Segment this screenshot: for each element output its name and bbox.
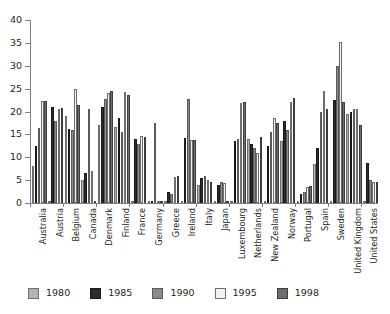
legend-label: 1998	[295, 288, 319, 298]
bar	[309, 186, 312, 203]
bar	[77, 105, 80, 203]
bar-group	[32, 20, 47, 203]
legend-label: 1985	[108, 288, 132, 298]
bar-group	[297, 20, 312, 203]
bar-group	[363, 20, 378, 203]
x-axis-label: Austria	[56, 208, 64, 237]
x-axis-label: Norway	[288, 208, 296, 239]
x-axis-tick	[262, 203, 263, 207]
y-axis-tick-label: 10	[0, 152, 22, 162]
legend-swatch-icon	[152, 288, 163, 299]
y-axis-tick	[25, 180, 30, 181]
bar-chart: 0510152025303540 AustraliaAustriaBelgium…	[0, 0, 390, 314]
x-axis-tick	[361, 203, 362, 207]
bar	[154, 123, 157, 203]
x-axis-tick	[96, 203, 97, 207]
legend-swatch-icon	[277, 288, 288, 299]
legend-item: 1998	[277, 288, 319, 299]
x-axis-label: Luxembourg	[238, 208, 246, 259]
y-axis-tick-label: 30	[0, 61, 22, 71]
x-axis-label: Canada	[89, 208, 97, 239]
bar	[342, 102, 345, 203]
y-axis-tick	[25, 112, 30, 113]
legend-item: 1985	[90, 288, 132, 299]
bar	[127, 95, 130, 203]
legend-swatch-icon	[90, 288, 101, 299]
bar-group	[131, 20, 146, 203]
y-axis-tick-label: 0	[0, 198, 22, 208]
x-axis-label: Sweden	[337, 208, 345, 240]
x-axis-tick	[63, 203, 64, 207]
bar-group	[230, 20, 245, 203]
x-axis-tick	[196, 203, 197, 207]
legend-item: 1990	[152, 288, 194, 299]
bar-group	[264, 20, 279, 203]
plot-area	[30, 20, 378, 203]
x-axis-labels: AustraliaAustriaBelgiumCanadaDenmarkFinl…	[30, 208, 378, 274]
bar	[326, 109, 329, 203]
legend-swatch-icon	[28, 288, 39, 299]
bar	[243, 102, 246, 203]
x-axis-label: Spain	[321, 208, 329, 231]
x-axis-tick	[295, 203, 296, 207]
x-axis-tick	[163, 203, 164, 207]
bar-group	[181, 20, 196, 203]
x-axis-label: Finland	[122, 208, 130, 237]
bar-group	[164, 20, 179, 203]
bar	[177, 176, 180, 203]
bar	[44, 101, 47, 203]
x-axis-tick	[328, 203, 329, 207]
x-axis-label: Ireland	[188, 208, 196, 236]
y-axis-line	[30, 20, 31, 204]
x-axis-label: United States	[370, 208, 378, 263]
bar	[293, 98, 296, 203]
bar-group	[114, 20, 129, 203]
x-axis-tick	[229, 203, 230, 207]
y-axis-tick-label: 15	[0, 129, 22, 139]
y-axis-tick-label: 20	[0, 107, 22, 117]
legend-swatch-icon	[215, 288, 226, 299]
y-axis-tick	[25, 43, 30, 44]
bar-group	[330, 20, 345, 203]
x-axis-label: Denmark	[105, 208, 113, 246]
bar	[260, 137, 263, 203]
x-axis-tick	[30, 203, 31, 207]
bar-group	[247, 20, 262, 203]
x-axis-label: Japan	[221, 208, 229, 231]
y-axis-tick	[25, 20, 30, 21]
x-axis-label: Netherlands	[254, 208, 262, 258]
x-axis-label: Belgium	[72, 208, 80, 242]
x-axis-label: Germany	[155, 208, 163, 246]
x-axis-label: Australia	[39, 208, 47, 244]
y-axis-tick-label: 25	[0, 84, 22, 94]
x-axis-line	[30, 203, 378, 204]
bar	[210, 182, 213, 203]
bar	[144, 137, 147, 203]
x-axis-label: Italy	[205, 208, 213, 226]
y-axis-tick-label: 35	[0, 38, 22, 48]
bar-group	[346, 20, 361, 203]
y-axis-tick	[25, 134, 30, 135]
x-axis-label: France	[138, 208, 146, 235]
bar	[91, 171, 94, 203]
y-axis-tick-label: 40	[0, 15, 22, 25]
bar-group	[313, 20, 328, 203]
bar-group	[65, 20, 80, 203]
legend-item: 1995	[215, 288, 257, 299]
bar-group	[48, 20, 63, 203]
y-axis-tick	[25, 157, 30, 158]
bar-group	[81, 20, 96, 203]
y-axis-tick-label: 5	[0, 175, 22, 185]
bar	[193, 140, 196, 203]
bar-group	[280, 20, 295, 203]
bar	[276, 123, 279, 203]
legend-label: 1995	[233, 288, 257, 298]
bar	[61, 108, 64, 203]
x-axis-label: New Zealand	[271, 208, 279, 262]
bar-group	[148, 20, 163, 203]
bar-group	[98, 20, 113, 203]
bar-group	[214, 20, 229, 203]
bar	[110, 91, 113, 203]
bar	[359, 125, 362, 203]
chart-legend: 19801985199019951998	[28, 285, 378, 301]
